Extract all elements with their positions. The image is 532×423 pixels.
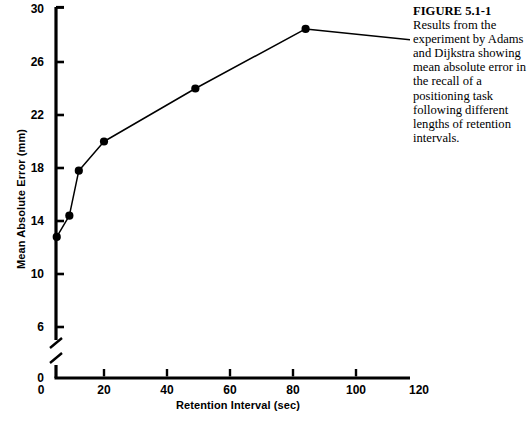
figure-caption-title: FIGURE 5.1-1 — [413, 4, 532, 18]
figure-caption-text: Results from theexperiment by Adamsand D… — [413, 18, 532, 145]
x-axis-title: Retention Interval (sec) — [56, 399, 420, 411]
y-axis-tick-label: 30 — [10, 3, 44, 15]
figure-caption-line: and Dijkstra showing — [413, 46, 532, 60]
y-axis-tick-label: 6 — [10, 321, 44, 333]
data-point-marker — [75, 167, 83, 175]
data-line-series-1 — [57, 29, 410, 237]
figure-caption-line: the recall of a — [413, 74, 532, 88]
figure-caption-line: lengths of retention — [413, 117, 532, 131]
data-point-marker — [65, 212, 73, 220]
data-point-marker — [191, 84, 199, 92]
y-axis-title: Mean Absolute Error (mm) — [15, 109, 27, 289]
x-axis-tick-label: 80 — [273, 384, 313, 396]
figure-caption-line: following different — [413, 103, 532, 117]
figure-caption-line: mean absolute error in — [413, 60, 532, 74]
x-axis-tick-label: 0 — [21, 384, 61, 396]
x-axis-tick-label: 60 — [210, 384, 250, 396]
x-axis-tick-label: 120 — [399, 384, 439, 396]
data-point-marker — [100, 137, 108, 145]
figure-caption-line: Results from the — [413, 18, 532, 32]
chart-plot-area — [0, 0, 410, 423]
figure-caption-line: experiment by Adams — [413, 32, 532, 46]
figure-page: 06101418222630 020406080100120 Mean Abso… — [0, 0, 532, 423]
data-point-marker — [53, 233, 61, 241]
y-axis-break-mark — [50, 353, 62, 363]
x-axis-tick-label: 40 — [147, 384, 187, 396]
figure-caption-line: positioning task — [413, 89, 532, 103]
x-axis-tick-label: 20 — [84, 384, 124, 396]
x-axis-tick-label: 100 — [336, 384, 376, 396]
data-point-marker — [302, 25, 310, 33]
chart-figure: 06101418222630 020406080100120 Mean Abso… — [0, 0, 410, 423]
figure-caption: FIGURE 5.1-1 Results from theexperiment … — [413, 4, 532, 145]
y-axis-tick-label: 26 — [10, 56, 44, 68]
figure-caption-line: intervals. — [413, 131, 532, 145]
